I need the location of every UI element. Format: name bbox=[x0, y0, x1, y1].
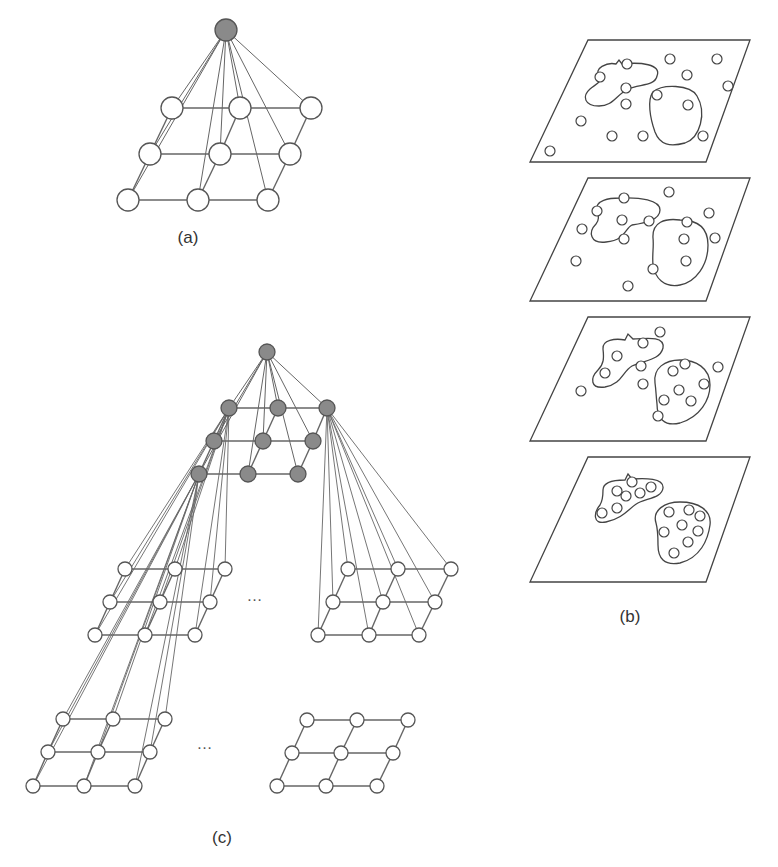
subgrid-node bbox=[41, 745, 55, 759]
root-link bbox=[229, 352, 267, 408]
grid-node bbox=[187, 189, 209, 211]
data-point bbox=[669, 548, 679, 558]
ellipsis: … bbox=[247, 587, 264, 604]
subgrid-node bbox=[350, 713, 364, 727]
ellipsis: … bbox=[197, 735, 214, 752]
panel-a-pyramid bbox=[117, 19, 322, 211]
fan-link bbox=[125, 408, 229, 569]
data-point bbox=[545, 146, 555, 156]
fan-link bbox=[327, 408, 419, 635]
subgrid-node bbox=[285, 746, 299, 760]
grid-node bbox=[209, 143, 231, 165]
data-point bbox=[655, 327, 665, 337]
grid-node bbox=[257, 189, 279, 211]
data-point bbox=[680, 359, 690, 369]
data-point bbox=[636, 361, 646, 371]
data-point bbox=[664, 507, 674, 517]
data-point bbox=[619, 193, 629, 203]
data-point bbox=[699, 379, 709, 389]
gray-grid-node bbox=[290, 466, 306, 482]
data-point bbox=[653, 411, 663, 421]
gray-grid-node bbox=[305, 433, 321, 449]
subgrid-node bbox=[341, 562, 355, 576]
data-point bbox=[597, 508, 607, 518]
data-point bbox=[698, 131, 708, 141]
data-point bbox=[600, 368, 610, 378]
data-point bbox=[681, 256, 691, 266]
plane-3 bbox=[530, 317, 750, 441]
data-point bbox=[682, 70, 692, 80]
subgrid-node bbox=[300, 713, 314, 727]
data-point bbox=[644, 216, 654, 226]
subgrid-node bbox=[26, 779, 40, 793]
subgrid-node bbox=[319, 779, 333, 793]
subgrid-node bbox=[326, 595, 340, 609]
data-point bbox=[595, 72, 605, 82]
data-point bbox=[679, 234, 689, 244]
root-link bbox=[172, 30, 226, 108]
subgrid-node bbox=[218, 562, 232, 576]
grid-node bbox=[229, 97, 251, 119]
data-point bbox=[612, 351, 622, 361]
data-point bbox=[659, 395, 669, 405]
subgrid-node bbox=[128, 779, 142, 793]
subgrid-node bbox=[386, 746, 400, 760]
data-point bbox=[686, 396, 696, 406]
data-point bbox=[627, 477, 637, 487]
plane-1 bbox=[530, 40, 750, 162]
data-point bbox=[621, 99, 631, 109]
gray-grid-node bbox=[191, 466, 207, 482]
data-point bbox=[664, 187, 674, 197]
subgrid-node bbox=[103, 595, 117, 609]
subgrid-node bbox=[401, 713, 415, 727]
data-point bbox=[621, 491, 631, 501]
data-point bbox=[576, 386, 586, 396]
subgrid-node bbox=[311, 628, 325, 642]
gray-grid-node bbox=[221, 400, 237, 416]
data-point bbox=[712, 54, 722, 64]
panel-b-clustering-planes bbox=[530, 40, 750, 582]
grid-node bbox=[139, 143, 161, 165]
grid-node bbox=[117, 189, 139, 211]
subgrid-node bbox=[391, 562, 405, 576]
root-link bbox=[226, 30, 290, 154]
plane-2 bbox=[530, 178, 750, 301]
data-point bbox=[621, 83, 631, 93]
plane-outline bbox=[530, 317, 750, 441]
subgrid-node bbox=[56, 712, 70, 726]
fan-link bbox=[165, 474, 199, 719]
subgrid-node bbox=[88, 628, 102, 642]
panel-b-label: (b) bbox=[620, 607, 641, 626]
data-point bbox=[576, 116, 586, 126]
data-point bbox=[623, 281, 633, 291]
data-point bbox=[638, 131, 648, 141]
fan-link bbox=[150, 474, 199, 752]
data-point bbox=[648, 264, 658, 274]
data-point bbox=[638, 338, 648, 348]
data-point bbox=[677, 520, 687, 530]
data-point bbox=[710, 233, 720, 243]
grid-node bbox=[161, 97, 183, 119]
gray-grid-node bbox=[206, 433, 222, 449]
data-point bbox=[577, 224, 587, 234]
subgrid-node bbox=[153, 595, 167, 609]
subgrid-node bbox=[118, 562, 132, 576]
root-link bbox=[267, 352, 313, 441]
data-point bbox=[612, 503, 622, 513]
data-point bbox=[723, 81, 733, 91]
subgrid-node bbox=[158, 712, 172, 726]
root-node bbox=[259, 344, 275, 360]
subgrid-node bbox=[370, 779, 384, 793]
subgrid-node bbox=[412, 628, 426, 642]
data-point bbox=[646, 482, 656, 492]
subgrid-node bbox=[143, 745, 157, 759]
data-point bbox=[592, 206, 602, 216]
data-point bbox=[695, 511, 705, 521]
gray-grid-node bbox=[240, 466, 256, 482]
subgrid-node bbox=[334, 746, 348, 760]
subgrid-node bbox=[444, 562, 458, 576]
data-point bbox=[571, 256, 581, 266]
subgrid-node bbox=[106, 712, 120, 726]
plane-4 bbox=[530, 457, 750, 582]
figure-canvas: (a) (b) (c) …… bbox=[0, 0, 778, 867]
